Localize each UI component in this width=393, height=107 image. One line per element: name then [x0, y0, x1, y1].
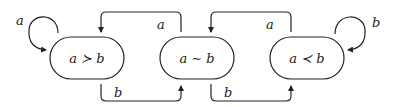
transition-label-gt-eq: b	[114, 86, 122, 99]
transition-label-lt-eq: a	[266, 18, 274, 31]
edge-gt-eq-b	[101, 84, 181, 101]
transition-label-lt-self: b	[372, 16, 380, 29]
transition-label-eq-lt: b	[224, 86, 232, 99]
edge-eq-lt-b	[211, 84, 291, 101]
edge-eq-gt-a	[101, 12, 181, 32]
state-diagram: a ≻ b a ∼ b a ≺ b a b a b a b	[0, 0, 393, 107]
transition-label-gt-self: a	[16, 14, 24, 27]
edge-lt-eq-a	[211, 12, 291, 32]
state-label-lt: a ≺ b	[270, 52, 344, 65]
edge-gt-self-a	[29, 17, 58, 50]
state-label-gt: a ≻ b	[50, 52, 124, 65]
transition-label-eq-gt: a	[157, 18, 165, 31]
state-label-eq: a ∼ b	[160, 52, 234, 65]
